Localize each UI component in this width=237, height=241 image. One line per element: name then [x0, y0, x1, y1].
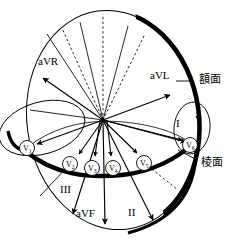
vector-aVR: [43, 78, 103, 120]
solid-ray-upper-mid: [80, 22, 103, 120]
frontal-plane-arc: [13, 0, 214, 241]
plane-label-frontal: 額面: [199, 74, 221, 85]
lead-label-aVL: aVL: [150, 70, 170, 81]
electrode-node-V1: V1: [20, 141, 35, 156]
electrode-node-V6: V6: [183, 138, 198, 153]
lead-label-II: II: [128, 207, 135, 218]
vector-aVL: [103, 95, 170, 120]
lead-label-III: III: [60, 184, 71, 195]
solid-ray-upper-left-1: [47, 34, 103, 120]
lead-label-aVF: aVF: [76, 208, 95, 219]
limb-lead-vectors-group: [43, 78, 186, 224]
lead-label-I: I: [176, 118, 180, 129]
solid-ray-upper-right-1: [103, 26, 128, 120]
vector-aVF: [103, 120, 105, 224]
electrode-node-V3: V3: [85, 161, 100, 176]
solid-ray-left-horizon: [30, 110, 103, 120]
electrode-node-V4: V4: [106, 161, 121, 176]
lead-label-aVR: aVR: [38, 56, 58, 67]
ecg-vector-diagram: V1 V2 V3 V4 V5 V6: [0, 0, 237, 241]
vector-V1: [37, 120, 103, 144]
precordial-lead-vectors-group: [37, 120, 182, 156]
electrode-node-V5: V5: [137, 156, 152, 171]
electrode-node-V2: V2: [63, 157, 78, 172]
diagram-canvas: V1 V2 V3 V4 V5 V6: [0, 0, 237, 241]
dashed-ray-lower-right: [148, 166, 178, 190]
main-ellipse-outline: [13, 0, 214, 241]
vector-V3: [95, 120, 100, 156]
origin-point: [101, 118, 105, 122]
vector-V6: [103, 120, 182, 140]
plane-label-horizontal: 棱面: [201, 157, 223, 168]
precordial-nodes-group: V1 V2 V3 V4 V5 V6: [20, 138, 198, 176]
